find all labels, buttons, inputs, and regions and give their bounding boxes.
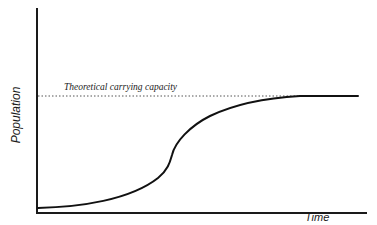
population-curve <box>38 96 358 208</box>
x-axis-label: Time <box>305 211 329 223</box>
y-axis-label: Population <box>9 87 23 144</box>
population-growth-chart: Population Time Theoretical carrying cap… <box>0 0 377 225</box>
carrying-capacity-label: Theoretical carrying capacity <box>64 82 177 92</box>
chart-canvas <box>0 0 377 225</box>
